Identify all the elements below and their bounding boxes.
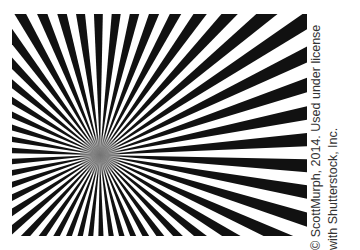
- photo-credit-line-2: with Shutterstock, Inc.: [325, 0, 342, 250]
- photo-credit-line-1: © ScottMurph, 2014. Used under license: [308, 0, 325, 250]
- starburst-center: [80, 135, 120, 175]
- starburst-image: [12, 14, 307, 236]
- starburst-rays: [12, 14, 307, 236]
- photo-credit: © ScottMurph, 2014. Used under license w…: [308, 0, 348, 250]
